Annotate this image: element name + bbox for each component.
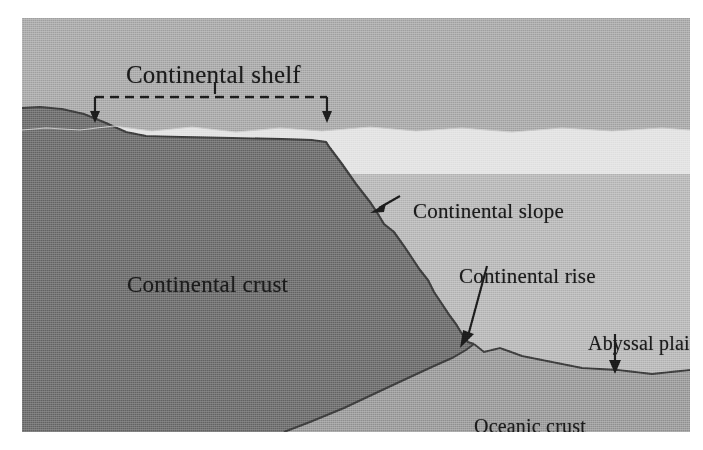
label-continental-slope: Continental slope xyxy=(413,201,564,222)
continental-margin-figure: Continental shelf Continental slope Cont… xyxy=(22,18,690,432)
label-continental-crust: Continental crust xyxy=(127,273,288,296)
label-abyssal-plain: Abyssal plain xyxy=(588,333,690,353)
page-root: Continental shelf Continental slope Cont… xyxy=(0,0,703,450)
label-oceanic-crust: Oceanic crust xyxy=(474,416,586,432)
diagram-canvas xyxy=(22,18,690,432)
label-continental-shelf: Continental shelf xyxy=(126,62,301,87)
label-continental-rise: Continental rise xyxy=(459,266,596,287)
